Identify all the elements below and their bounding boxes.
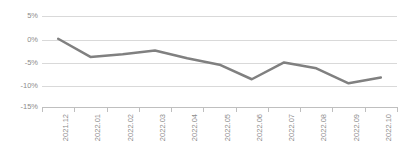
x-tick-label-2022.04: 2022.04 — [191, 114, 199, 141]
x-tick-mark — [332, 107, 333, 112]
x-tick-label-2022.07: 2022.07 — [288, 114, 296, 141]
x-tick-mark — [397, 107, 398, 112]
x-tick-mark — [300, 107, 301, 112]
x-tick-label-2022.06: 2022.06 — [256, 114, 264, 141]
line-chart: 5% 0% -5% -10% -15% 2021.122022.012022.0… — [0, 0, 419, 160]
x-tick-label-2022.01: 2022.01 — [94, 114, 102, 141]
x-tick-mark — [139, 107, 140, 112]
x-axis: 2021.122022.012022.022022.032022.042022.… — [0, 0, 419, 160]
x-tick-mark — [42, 107, 43, 112]
x-tick-label-2022.02: 2022.02 — [127, 114, 135, 141]
x-tick-mark — [107, 107, 108, 112]
x-tick-label-2022.05: 2022.05 — [224, 114, 232, 141]
x-tick-label-2022.08: 2022.08 — [320, 114, 328, 141]
x-tick-mark — [365, 107, 366, 112]
x-tick-mark — [268, 107, 269, 112]
x-tick-label-2022.09: 2022.09 — [353, 114, 361, 141]
x-tick-mark — [171, 107, 172, 112]
x-tick-mark — [203, 107, 204, 112]
x-tick-mark — [236, 107, 237, 112]
x-tick-label-2021.12: 2021.12 — [62, 114, 70, 141]
x-tick-label-2022.10: 2022.10 — [385, 114, 393, 141]
x-tick-mark — [74, 107, 75, 112]
x-tick-label-2022.03: 2022.03 — [159, 114, 167, 141]
